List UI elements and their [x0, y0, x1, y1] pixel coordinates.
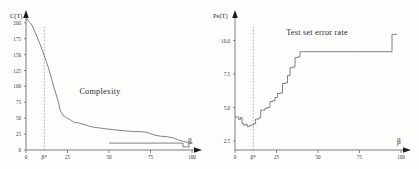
x-tick-label: 75: [148, 154, 154, 160]
x-axis-name-complexity: β: [188, 137, 192, 146]
x-tick-label: 50: [106, 154, 112, 160]
x-axis-arrow-icon-complexity: [194, 147, 202, 153]
y-tick-label: 10.0: [221, 38, 230, 44]
x-tick-label: 0: [234, 154, 237, 160]
chart-panel-test-set-error-rate: 2.5 5.0 7.5 10.0 0 25 50 75 100 β* Pe(T)…: [209, 0, 418, 169]
x-axis-arrow-icon-error-rate: [403, 147, 411, 153]
x-axis-name-error-rate: β: [397, 137, 401, 146]
data-curve-complexity-tail: [109, 143, 190, 147]
y-tick-label: 100: [13, 83, 21, 89]
y-tick-label: 0: [18, 147, 21, 153]
x-tick-label: 100: [188, 154, 196, 160]
data-curve-error-rate: [235, 34, 397, 126]
y-axis-arrow-icon-complexity: [23, 10, 29, 18]
x-tick-label: 25: [274, 154, 280, 160]
y-tick-label: 125: [13, 68, 21, 74]
y-tick-label: 2.5: [224, 138, 231, 144]
x-tick-label: 50: [315, 154, 321, 160]
y-tick-label: 50: [16, 115, 22, 121]
y-tick-label: 25: [16, 131, 22, 137]
figure-container: 0 25 50 75 100 125 150 175 200 0 25 50 7…: [0, 0, 419, 169]
x-tick-label: 0: [25, 154, 28, 160]
annotation-complexity: Complexity: [79, 87, 121, 96]
data-curve-complexity: [26, 19, 193, 143]
y-tick-label: 200: [13, 20, 21, 26]
y-tick-label: 75: [16, 99, 22, 105]
y-axis-arrow-icon-error-rate: [232, 10, 238, 18]
x-tick-label: 25: [65, 154, 71, 160]
beta-star-label-complexity: β*: [42, 154, 48, 160]
y-axis-name-error-rate: Pe(T): [213, 12, 228, 20]
chart-panel-complexity: 0 25 50 75 100 125 150 175 200 0 25 50 7…: [0, 0, 209, 169]
x-tick-label: 75: [357, 154, 363, 160]
y-tick-label: 175: [13, 36, 21, 42]
y-tick-label: 5.0: [224, 105, 231, 111]
annotation-error-rate: Test set error rate: [286, 28, 348, 37]
y-axis-name-complexity: C(T): [10, 12, 22, 20]
x-tick-label: 100: [397, 154, 405, 160]
y-tick-label: 7.5: [224, 71, 231, 77]
beta-star-label-error-rate: β*: [251, 154, 257, 160]
y-tick-label: 150: [13, 52, 21, 58]
